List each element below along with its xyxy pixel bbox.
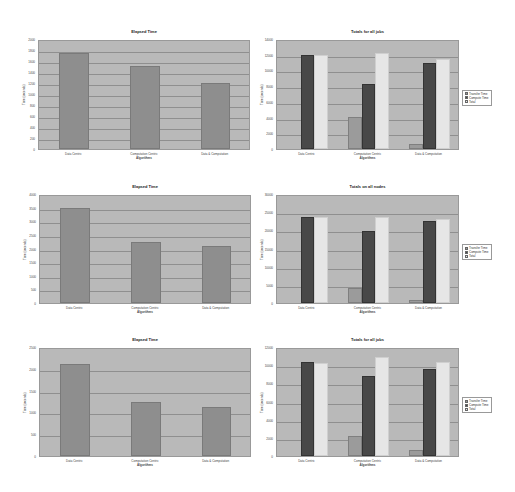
y-tick-label: 1800: [13, 49, 35, 53]
y-tick-label: 30000: [251, 193, 273, 197]
y-tick-label: 0: [251, 455, 273, 459]
bar: [59, 53, 89, 149]
x-tick-label: Data Centric: [44, 306, 104, 310]
bar: [60, 208, 90, 303]
y-tick-label: 0: [251, 302, 273, 306]
y-tick-label: 4000: [14, 193, 36, 197]
bar-compute: [362, 376, 375, 456]
chart-tl: Elapsed Time0200400600800100012001400160…: [0, 0, 257, 160]
chart-title: Elapsed Time: [38, 29, 250, 34]
chart-title: Totals on all nodes: [276, 184, 459, 189]
plot-area: [276, 40, 459, 150]
x-axis-label: Algorithms: [338, 463, 398, 467]
bar-total: [375, 357, 388, 456]
y-axis-label: Time (seconds): [23, 239, 27, 260]
chart-title: Elapsed Time: [39, 184, 251, 189]
y-tick-label: 1500: [14, 261, 36, 265]
x-axis-label: Algorithms: [115, 463, 175, 467]
x-axis-label: Algorithms: [338, 310, 398, 314]
y-axis-label: Time (seconds): [22, 84, 26, 105]
x-tick-label: Data Centric: [44, 459, 104, 463]
y-tick-label: 500: [14, 288, 36, 292]
bar-compute: [362, 231, 375, 303]
plot-area: [276, 195, 459, 304]
y-axis-label: Time (seconds): [23, 392, 27, 413]
legend-item: Total: [465, 100, 489, 104]
bar-total: [436, 219, 449, 303]
y-axis-label: Time (seconds): [260, 84, 264, 105]
legend-swatch: [465, 400, 468, 403]
legend-swatch: [465, 255, 468, 258]
legend-swatch: [465, 96, 468, 99]
bar-compute: [423, 221, 436, 303]
y-tick-label: 500: [14, 433, 36, 437]
x-tick-label: Data Centric: [43, 152, 103, 156]
bar-transfer: [348, 288, 361, 303]
x-tick-label: Data & Computation: [399, 152, 459, 156]
y-tick-label: 12000: [251, 54, 273, 58]
legend-item: Total: [465, 254, 489, 258]
chart-title: Totals for all jobs: [276, 337, 459, 342]
bar-transfer: [409, 450, 422, 456]
bar-compute: [301, 217, 314, 303]
bar: [130, 66, 160, 149]
y-tick-label: 4000: [251, 117, 273, 121]
bar-total: [314, 217, 327, 303]
bar: [201, 83, 231, 149]
legend-swatch: [465, 247, 468, 250]
y-tick-label: 2000: [251, 437, 273, 441]
y-tick-label: 0: [14, 302, 36, 306]
bar-compute: [301, 362, 314, 456]
plot-area: [39, 348, 251, 457]
y-tick-label: 0: [13, 148, 35, 152]
y-tick-label: 10000: [251, 266, 273, 270]
y-tick-label: 3000: [14, 220, 36, 224]
bar-transfer: [348, 117, 361, 149]
chart-ml: Elapsed Time0500100015002000250030003500…: [0, 160, 257, 320]
plot-area: [38, 40, 250, 150]
y-tick-label: 2000: [251, 132, 273, 136]
x-tick-label: Data Centric: [277, 152, 337, 156]
y-tick-label: 600: [13, 115, 35, 119]
x-tick-label: Data & Computation: [399, 306, 459, 310]
bar-total: [375, 217, 388, 303]
y-tick-label: 1400: [13, 71, 35, 75]
x-tick-label: Data & Computation: [186, 306, 246, 310]
legend-swatch: [465, 408, 468, 411]
chart-title: Totals for all jobs: [276, 29, 459, 34]
legend-swatch: [465, 92, 468, 95]
bar-total: [436, 59, 449, 149]
y-tick-label: 25000: [251, 211, 273, 215]
bar-total: [314, 55, 327, 149]
legend-label: Total: [469, 407, 475, 411]
y-tick-label: 0: [14, 455, 36, 459]
y-tick-label: 200: [13, 137, 35, 141]
bar-total: [436, 362, 449, 456]
bar-compute: [362, 84, 375, 149]
bar-total: [314, 363, 327, 456]
y-axis-label: Time (seconds): [260, 239, 264, 260]
legend-label: Total: [469, 254, 475, 258]
y-tick-label: 14000: [251, 38, 273, 42]
chart-br: Totals for all jobs020004000600080001000…: [257, 315, 515, 475]
x-axis-label: Algorithms: [115, 310, 175, 314]
bar: [202, 246, 232, 303]
bar-compute: [423, 369, 436, 456]
x-tick-label: Data & Computation: [399, 459, 459, 463]
x-tick-label: Data & Computation: [185, 152, 245, 156]
x-tick-label: Data Centric: [277, 459, 337, 463]
y-tick-label: 2500: [14, 234, 36, 238]
bar-total: [375, 53, 388, 149]
y-tick-label: 8000: [251, 382, 273, 386]
bar-transfer: [409, 144, 422, 150]
legend-swatch: [465, 404, 468, 407]
chart-tr: Totals for all jobs020004000600080001000…: [257, 0, 515, 160]
y-tick-label: 400: [13, 126, 35, 130]
y-tick-label: 2500: [14, 346, 36, 350]
y-tick-label: 1000: [14, 275, 36, 279]
legend: Transfer TimeCompute TimeTotal: [462, 90, 492, 106]
chart-mr: Totals on all nodes050001000015000200002…: [257, 160, 515, 320]
x-tick-label: Data & Computation: [186, 459, 246, 463]
plot-area: [276, 348, 459, 457]
legend-label: Total: [469, 100, 475, 104]
